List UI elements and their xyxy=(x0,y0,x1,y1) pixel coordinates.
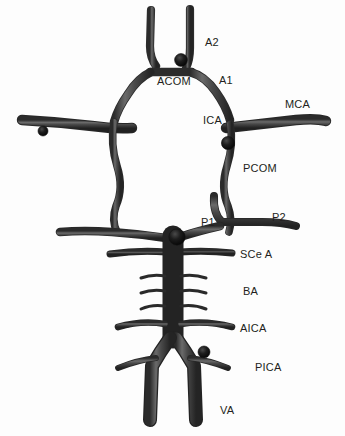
artery-label-p2: P2 xyxy=(272,212,286,223)
artery-label-a1: A1 xyxy=(219,75,233,86)
artery-label-p1: P1 xyxy=(201,217,215,228)
vessel-p1-p2-left xyxy=(60,231,166,238)
aneurysm-marker xyxy=(169,229,185,245)
artery-label-aica: AICA xyxy=(240,323,266,334)
artery-label-mca: MCA xyxy=(285,99,310,110)
artery-label-ica: ICA xyxy=(203,115,222,126)
aneurysm-marker xyxy=(198,346,210,358)
vessel-aica-left xyxy=(118,323,165,327)
vessel-scea-right xyxy=(180,251,232,253)
vessel-pcom-left xyxy=(113,122,121,232)
vessel-va-right xyxy=(176,338,196,420)
artery-label-pcom: PCOM xyxy=(243,163,277,174)
aneurysm-marker xyxy=(175,54,188,67)
circle-of-willis-diagram: A2ACOMA1MCAICAPCOMP1P2SCe ABAAICAPICAVA xyxy=(0,0,345,436)
aneurysm-marker xyxy=(221,136,234,149)
vessel-va-left xyxy=(150,338,170,420)
vessel-aica-right xyxy=(181,323,232,327)
artery-label-ba: BA xyxy=(243,286,258,297)
vessel-scea-left xyxy=(110,251,166,254)
vessel-a2-left xyxy=(150,10,156,66)
aneurysm-layer xyxy=(38,54,235,358)
artery-label-acom: ACOM xyxy=(157,76,191,87)
artery-label-a2: A2 xyxy=(205,37,219,48)
vessel-a1-left xyxy=(114,72,151,122)
artery-label-va: VA xyxy=(220,405,234,416)
aneurysm-marker xyxy=(38,126,48,136)
vessel-mca-right xyxy=(226,119,326,128)
artery-label-scea: SCe A xyxy=(240,249,272,260)
artery-label-pica: PICA xyxy=(255,362,281,373)
vessel-illustration xyxy=(0,0,345,436)
